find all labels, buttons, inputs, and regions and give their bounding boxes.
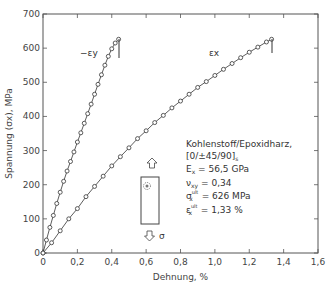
data-point — [58, 229, 62, 233]
arrow-up-icon — [147, 158, 157, 168]
y-tick-label: 0 — [34, 248, 40, 258]
x-tick-label: 1,2 — [242, 257, 256, 267]
data-point — [118, 155, 122, 159]
data-point — [264, 40, 268, 44]
data-point — [93, 92, 97, 96]
data-point — [75, 140, 79, 144]
curve-label-ex: εx — [209, 48, 220, 58]
data-point — [86, 112, 90, 116]
data-point — [239, 56, 243, 60]
x-axis-label: Dehnung, % — [153, 272, 209, 282]
data-point — [75, 207, 79, 211]
data-point — [153, 121, 157, 125]
data-point — [106, 54, 110, 58]
layup: [0/±45/90]s — [186, 151, 238, 162]
data-point — [50, 241, 54, 245]
x-tick-label: 1,6 — [311, 257, 326, 267]
data-point — [256, 45, 260, 49]
arrow-down-icon — [145, 231, 155, 241]
curve-label-ey: −εy — [80, 48, 98, 58]
data-point — [84, 195, 88, 199]
x-tick-label: 0,2 — [70, 257, 84, 267]
y-tick-label: 100 — [23, 214, 40, 224]
ultimate-strain: εultx = 1,33 % — [186, 203, 243, 216]
x-tick-label: 1,0 — [208, 257, 223, 267]
modulus: Ex = 56,5 GPa — [186, 164, 249, 175]
y-axis-label: Spannung (σx), MPa — [4, 88, 14, 178]
data-point — [213, 73, 217, 77]
series-ey — [41, 37, 121, 255]
data-point — [72, 150, 76, 154]
data-point — [230, 62, 234, 66]
data-point — [127, 146, 131, 150]
data-point — [79, 131, 83, 135]
data-point — [170, 106, 174, 110]
data-point — [247, 50, 251, 54]
data-point — [179, 99, 183, 103]
x-tick-label: 0,4 — [105, 257, 120, 267]
ultimate-stress: σultx = 626 MPa — [186, 189, 250, 202]
data-point — [44, 238, 48, 242]
data-point — [144, 129, 148, 133]
data-point — [110, 164, 114, 168]
data-point — [161, 113, 165, 117]
y-tick-label: 600 — [23, 43, 40, 53]
y-tick-label: 200 — [23, 180, 40, 190]
stress-strain-chart: 00,20,40,60,81,01,21,41,6010020030040050… — [0, 0, 334, 290]
data-point — [113, 41, 117, 45]
data-point — [67, 217, 71, 221]
data-point — [51, 213, 55, 217]
data-point — [55, 201, 59, 205]
data-point — [41, 251, 45, 255]
data-point — [62, 179, 66, 183]
y-tick-label: 700 — [23, 9, 40, 19]
sigma-label: σ — [159, 231, 165, 241]
y-tick-label: 400 — [23, 111, 40, 121]
data-point — [58, 190, 62, 194]
data-point — [48, 225, 52, 229]
data-point — [82, 121, 86, 125]
data-point — [96, 82, 100, 86]
y-tick-label: 300 — [23, 146, 40, 156]
data-point — [196, 85, 200, 89]
data-point — [65, 169, 69, 173]
y-tick-label: 500 — [23, 77, 40, 87]
x-tick-label: 1,4 — [276, 257, 291, 267]
data-point — [89, 102, 93, 106]
data-point — [93, 184, 97, 188]
data-point — [110, 47, 114, 51]
data-point — [204, 80, 208, 84]
data-point — [221, 67, 225, 71]
material-name: Kohlenstoff/Epoxidharz, — [186, 139, 292, 149]
data-point — [99, 73, 103, 77]
x-tick-label: 0,8 — [173, 257, 188, 267]
data-point — [101, 174, 105, 178]
material-annotation: Kohlenstoff/Epoxidharz, [0/±45/90]s Ex =… — [186, 139, 292, 216]
x-tick-label: 0,6 — [139, 257, 154, 267]
specimen-diagram: σ — [141, 158, 165, 241]
data-point — [69, 159, 73, 163]
x-tick-label: 0 — [40, 257, 46, 267]
data-point — [136, 137, 140, 141]
data-point — [187, 92, 191, 96]
data-point — [103, 63, 107, 67]
